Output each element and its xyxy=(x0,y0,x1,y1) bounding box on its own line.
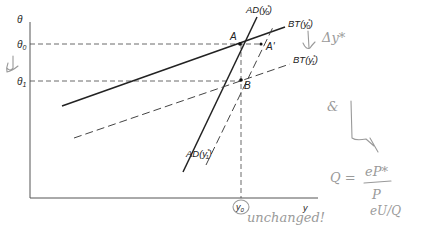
ad-y1-label: AD(y*1) xyxy=(185,148,212,160)
formula-numerator: eP* xyxy=(365,164,388,179)
theta0-tick-label: θ0 xyxy=(17,39,26,51)
formula-fraction-bar xyxy=(364,181,391,183)
economics-diagram: θ y θ0 θ1 AD(y*0) BT(y*0) BT(y*1) xyxy=(0,0,432,229)
point-b-marker xyxy=(239,78,243,82)
y0-tick-label: y0 xyxy=(235,202,245,213)
point-a-marker xyxy=(238,42,242,46)
point-b-label: B xyxy=(244,80,251,91)
point-a-prime-label: A' xyxy=(265,41,276,52)
down-arrow-icon xyxy=(303,31,315,48)
ad-y1-curve xyxy=(206,25,274,165)
delta-y-star-annotation: Δy* xyxy=(321,30,346,45)
formula-denominator: P xyxy=(371,187,381,202)
bracket-icon xyxy=(351,101,378,152)
left-down-arrow-icon xyxy=(7,56,18,72)
curves xyxy=(62,17,290,172)
bt-y1-label: BT(y*1) xyxy=(293,54,318,66)
point-a-label: A xyxy=(229,31,237,42)
ampersand-annotation: & xyxy=(327,99,339,114)
bt-y0-label: BT(y*0) xyxy=(288,18,313,30)
bt-y0-curve xyxy=(62,27,285,106)
bt-y1-curve xyxy=(74,64,290,138)
y-axis-label: θ xyxy=(17,14,23,25)
formula-extra: eU/Q xyxy=(370,204,401,218)
svg-text:θ0: θ0 xyxy=(17,39,26,51)
ad-y0-label: AD(y*0) xyxy=(245,4,272,16)
theta1-tick-label: θ1 xyxy=(17,76,26,88)
point-a-prime-marker xyxy=(259,42,262,45)
unchanged-annotation: unchanged! xyxy=(247,210,325,225)
formula-lhs: Q = xyxy=(330,170,356,185)
svg-text:θ1: θ1 xyxy=(17,76,26,88)
